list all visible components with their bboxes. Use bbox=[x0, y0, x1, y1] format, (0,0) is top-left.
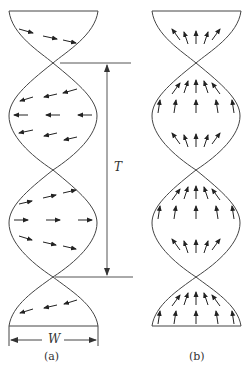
panel-a-ribbon bbox=[9, 11, 98, 326]
panel-a-caption: (a) bbox=[44, 350, 59, 363]
panel-b-caption: (b) bbox=[189, 350, 205, 363]
width-label: W bbox=[46, 332, 62, 346]
panel-b-ribbon bbox=[152, 11, 241, 326]
panel-b-arrows bbox=[158, 29, 234, 324]
twisted-ribbon-diagram bbox=[0, 0, 247, 373]
panel-a-arrows bbox=[14, 29, 92, 313]
period-label: T bbox=[114, 160, 122, 174]
